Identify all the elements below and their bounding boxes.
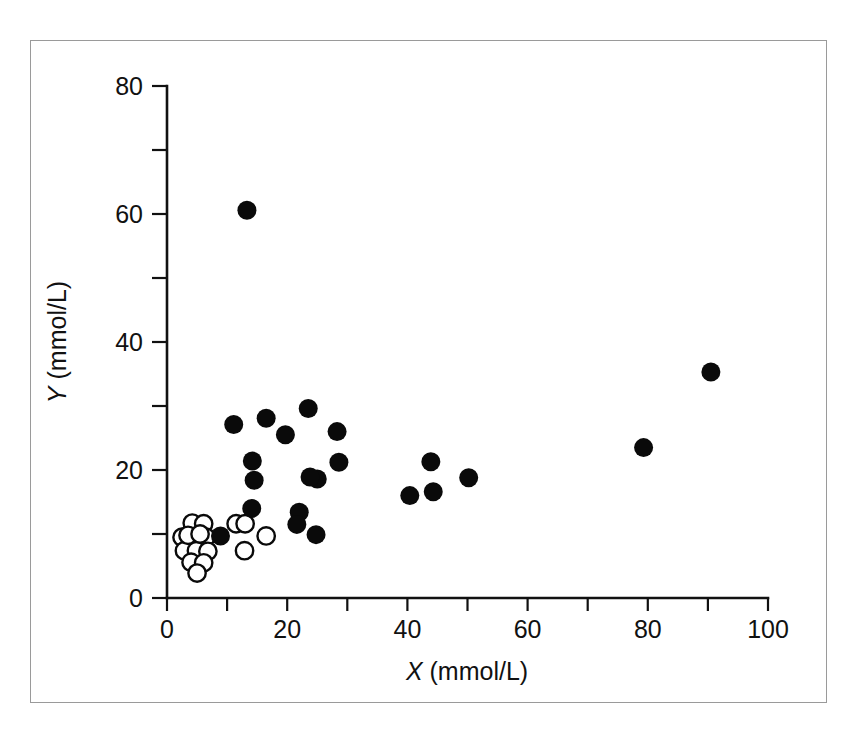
figure-root: 020406080100 020406080 X (mmol/L) Y (mmo… [0, 0, 855, 738]
series-filled-circles [211, 201, 720, 546]
data-point-filled [459, 468, 478, 487]
y-tick-label: 20 [115, 456, 143, 484]
y-axis-ticks: 020406080 [115, 72, 167, 612]
y-tick-label: 60 [115, 200, 143, 228]
x-axis-ticks: 020406080100 [160, 598, 789, 643]
y-axis-title-unit: (mmol/L) [43, 281, 71, 387]
data-point-filled [301, 468, 320, 487]
y-tick-label: 0 [129, 584, 143, 612]
data-point-filled [243, 452, 262, 471]
scatter-plot: 020406080100 020406080 X (mmol/L) Y (mmo… [0, 0, 855, 738]
data-point-filled [634, 438, 653, 457]
data-point-filled [276, 425, 295, 444]
data-point-open [188, 564, 205, 581]
x-tick-label: 60 [514, 615, 542, 643]
y-tick-label: 80 [115, 72, 143, 100]
x-tick-label: 100 [747, 615, 789, 643]
data-point-open [191, 525, 208, 542]
x-tick-label: 40 [393, 615, 421, 643]
series-open-circles [173, 514, 275, 581]
data-point-filled [224, 415, 243, 434]
data-point-filled [245, 471, 264, 490]
x-axis-title: X (mmol/L) [405, 657, 528, 685]
data-point-filled [307, 525, 326, 544]
data-point-filled [211, 526, 230, 545]
data-point-filled [328, 422, 347, 441]
data-point-filled [400, 486, 419, 505]
data-point-filled [329, 453, 348, 472]
x-axis-title-variable: X [405, 657, 424, 685]
axes-group [167, 86, 768, 598]
data-point-filled [237, 201, 256, 220]
data-point-open [257, 527, 274, 544]
x-tick-label: 80 [634, 615, 662, 643]
data-point-filled [424, 482, 443, 501]
data-point-filled [421, 452, 440, 471]
y-tick-label: 40 [115, 328, 143, 356]
data-point-filled [242, 499, 261, 518]
x-tick-label: 0 [160, 615, 174, 643]
x-tick-label: 20 [273, 615, 301, 643]
y-axis-title: Y (mmol/L) [43, 281, 71, 403]
x-axis-title-unit: (mmol/L) [423, 657, 529, 685]
data-point-filled [299, 399, 318, 418]
data-point-filled [287, 515, 306, 534]
data-point-open [236, 542, 253, 559]
data-point-filled [701, 363, 720, 382]
data-point-filled [257, 409, 276, 428]
